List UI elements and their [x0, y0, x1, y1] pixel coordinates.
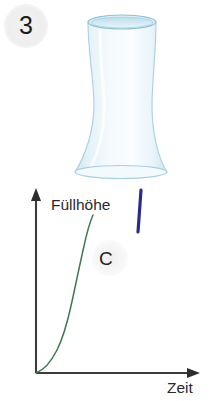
tower-base-rim: [75, 166, 167, 179]
tower-top-opening: [91, 17, 153, 28]
fuellhoehe-zeit-chart: Füllhöhe Zeit C: [0, 182, 216, 401]
x-axis-arrowhead: [187, 368, 200, 378]
cooling-tower-illustration: [0, 0, 216, 190]
worksheet-page: 3: [0, 0, 216, 401]
chart-canvas: [0, 182, 216, 401]
blue-pen-mark: [138, 190, 141, 232]
curve-annotation-label: C: [99, 248, 113, 270]
y-axis-label: Füllhöhe: [51, 196, 110, 214]
y-axis-arrowhead: [31, 188, 41, 201]
x-axis-label: Zeit: [167, 379, 193, 397]
tower-body: [75, 22, 167, 172]
fuellhoehe-curve: [36, 215, 93, 373]
cooling-tower-icon: [0, 0, 216, 190]
